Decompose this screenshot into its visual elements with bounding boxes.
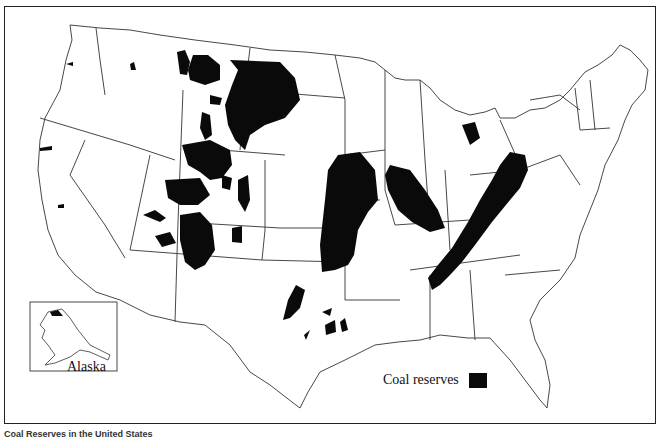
legend: Coal reserves	[383, 372, 487, 388]
legend-label: Coal reserves	[383, 372, 459, 388]
coal-reserve-regions	[40, 50, 528, 340]
legend-swatch-coal	[469, 373, 487, 388]
figure-caption: Coal Reserves in the United States	[4, 429, 153, 437]
alaska-inset-label: Alaska	[67, 359, 106, 375]
